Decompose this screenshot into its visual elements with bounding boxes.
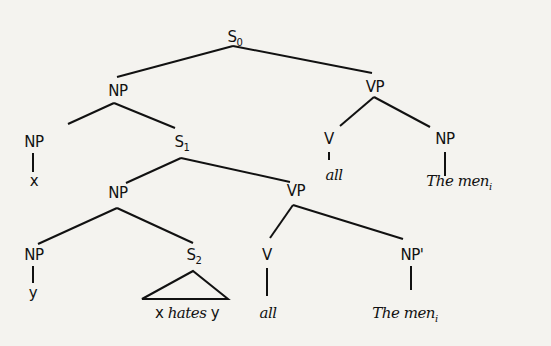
node-s2: S2 bbox=[187, 246, 202, 264]
edge-np-np bbox=[68, 103, 114, 124]
node-v-mid: V bbox=[262, 246, 272, 264]
leaf-the-men-top: The meni bbox=[426, 172, 491, 190]
node-np-top: NP bbox=[108, 82, 127, 100]
s2-triangle bbox=[142, 271, 228, 299]
node-vp-top: VP bbox=[366, 78, 384, 96]
edge-s1-vp bbox=[181, 158, 290, 182]
leaf-the-men-mid: The meni bbox=[372, 304, 437, 322]
node-vp-mid: VP bbox=[287, 182, 305, 200]
node-np-y: NP bbox=[24, 246, 43, 264]
leaf-all-mid: all bbox=[259, 304, 276, 322]
node-v-top: V bbox=[324, 130, 334, 148]
node-np-men-top: NP bbox=[435, 130, 454, 148]
node-s0: S0 bbox=[228, 28, 243, 46]
node-s1: S1 bbox=[175, 133, 190, 151]
edge-vpmid-v bbox=[270, 205, 293, 238]
edge-s0-vp bbox=[233, 46, 372, 73]
edge-npmid-s2 bbox=[117, 208, 193, 243]
edge-vpmid-npprime bbox=[293, 205, 403, 239]
node-np-prime: NP' bbox=[401, 246, 424, 264]
edge-s0-np bbox=[117, 46, 233, 77]
leaf-x: x bbox=[30, 172, 38, 190]
leaf-y: y bbox=[29, 284, 37, 302]
node-np-mid: NP bbox=[108, 184, 127, 202]
syntax-tree-diagram: S0 NP VP NP S1 V NP x all The meni NP VP… bbox=[0, 0, 551, 346]
edge-s1-np bbox=[126, 158, 181, 183]
leaf-all-top: all bbox=[325, 166, 342, 184]
edge-vp-v bbox=[340, 97, 374, 126]
edge-vp-np bbox=[374, 97, 430, 127]
node-np-x: NP bbox=[24, 133, 43, 151]
edge-npmid-np bbox=[38, 208, 117, 244]
edge-np-s1 bbox=[114, 103, 175, 128]
leaf-x-hates-y: x hates y bbox=[155, 304, 219, 322]
